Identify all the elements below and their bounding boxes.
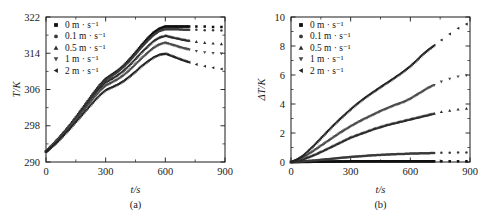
x-tick-label: 0	[43, 166, 48, 177]
x-tick-label: 900	[217, 166, 233, 177]
data-point	[465, 107, 468, 110]
legend-marker	[299, 45, 304, 49]
data-point	[220, 29, 223, 32]
legend-marker	[54, 23, 58, 27]
data-point	[448, 78, 451, 81]
data-point	[195, 40, 198, 43]
x-tick-label: 300	[98, 166, 114, 177]
y-tick-label: 4	[280, 99, 286, 110]
data-point	[433, 160, 436, 163]
data-point	[188, 28, 191, 31]
y-tick-label: 10	[275, 12, 286, 23]
x-tick-label: 600	[157, 166, 173, 177]
legend-label: 2 m · s⁻¹	[65, 66, 99, 76]
data-point	[220, 67, 223, 70]
x-tick-label: 900	[462, 166, 478, 177]
legend-label: 1 m · s⁻¹	[65, 54, 99, 64]
legend-label: 0.1 m · s⁻¹	[65, 31, 106, 41]
legend-marker	[299, 35, 303, 39]
legend-label: 0.5 m · s⁻¹	[65, 43, 106, 53]
data-point	[220, 26, 223, 29]
panel-caption: (a)	[130, 199, 142, 211]
data-point	[433, 152, 436, 155]
data-point	[457, 108, 460, 111]
x-axis-title: t/s	[376, 184, 386, 195]
x-tick-label: 300	[343, 166, 359, 177]
legend-marker	[299, 68, 303, 73]
x-tick-label: 0	[288, 166, 293, 177]
y-tick-label: 298	[24, 120, 40, 131]
data-point	[212, 42, 215, 45]
data-point	[195, 63, 198, 66]
data-point	[448, 160, 451, 163]
data-point	[440, 160, 443, 163]
data-point	[212, 29, 215, 32]
data-point	[203, 29, 206, 32]
legend-marker	[54, 45, 59, 49]
legend-label: 0.1 m · s⁻¹	[310, 31, 351, 41]
legend: 0 m · s⁻¹0.1 m · s⁻¹0.5 m · s⁻¹1 m · s⁻¹…	[299, 20, 351, 76]
y-tick-label: 314	[24, 48, 41, 59]
data-point	[195, 25, 198, 28]
legend-label: 1 m · s⁻¹	[310, 54, 344, 64]
figure-container: 0300600900290298306314322t/sT/K(a)0 m · …	[0, 0, 489, 213]
y-tick-label: 0	[280, 157, 285, 168]
data-point	[457, 160, 460, 163]
data-point	[203, 41, 206, 44]
data-point	[203, 51, 206, 54]
legend-label: 0.5 m · s⁻¹	[310, 43, 351, 53]
panel-b: 03006009000246810t/sΔT/K(b)0 m · s⁻¹0.1 …	[245, 0, 489, 213]
legend-marker	[54, 35, 58, 39]
panel-b-plot: 03006009000246810t/sΔT/K(b)0 m · s⁻¹0.1 …	[245, 0, 489, 213]
y-axis-title: ΔT/K	[256, 78, 267, 102]
legend-marker	[54, 68, 58, 73]
data-point	[440, 81, 443, 84]
data-point	[440, 152, 443, 155]
data-point	[440, 38, 443, 41]
legend-marker	[299, 23, 303, 27]
legend-label: 0 m · s⁻¹	[310, 20, 344, 30]
legend: 0 m · s⁻¹0.1 m · s⁻¹0.5 m · s⁻¹1 m · s⁻¹…	[54, 20, 106, 76]
data-point	[188, 25, 191, 28]
panel-a-plot: 0300600900290298306314322t/sT/K(a)0 m · …	[0, 0, 244, 213]
data-point	[203, 25, 206, 28]
y-tick-label: 290	[24, 157, 40, 168]
panel-a: 0300600900290298306314322t/sT/K(a)0 m · …	[0, 0, 244, 213]
data-point	[220, 52, 223, 55]
legend-label: 0 m · s⁻¹	[65, 20, 99, 30]
x-tick-label: 600	[402, 166, 418, 177]
data-point	[448, 151, 451, 154]
data-point	[448, 109, 451, 112]
data-point	[195, 50, 198, 53]
data-point	[465, 160, 468, 163]
data-point	[465, 151, 468, 154]
data-point	[465, 23, 468, 26]
data-point	[465, 74, 468, 77]
data-point	[212, 52, 215, 55]
y-axis-title: T/K	[11, 81, 22, 98]
y-tick-label: 2	[280, 128, 285, 139]
data-point	[212, 26, 215, 29]
legend-marker	[299, 57, 304, 61]
legend-marker	[54, 57, 59, 61]
data-point	[440, 110, 443, 113]
y-tick-label: 8	[280, 41, 285, 52]
data-point	[457, 27, 460, 30]
legend-label: 2 m · s⁻¹	[310, 66, 344, 76]
x-axis-title: t/s	[131, 184, 141, 195]
y-tick-label: 306	[24, 84, 40, 95]
y-tick-label: 6	[280, 70, 285, 81]
data-point	[195, 29, 198, 32]
data-point	[212, 66, 215, 69]
data-point	[220, 42, 223, 45]
data-point	[203, 65, 206, 68]
panel-caption: (b)	[374, 199, 387, 211]
y-tick-label: 322	[24, 12, 40, 23]
data-point	[457, 75, 460, 78]
data-point	[457, 151, 460, 154]
data-point	[448, 32, 451, 35]
